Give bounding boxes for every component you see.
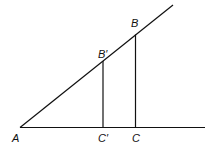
hypotenuse [20,5,173,128]
label-b: B [131,18,138,29]
label-b-prime: B′ [98,49,107,60]
diagram: A B B′ C C′ [0,0,210,147]
label-c-prime: C′ [98,133,108,144]
label-a: A [12,133,19,144]
label-c: C [132,133,140,144]
geometry-lines [0,0,210,147]
